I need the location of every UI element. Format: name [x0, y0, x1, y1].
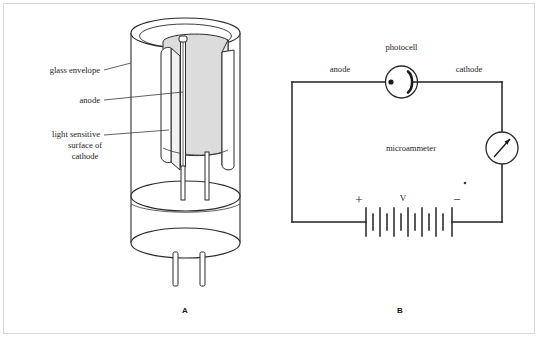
label-cathode-line2: surface of: [68, 140, 102, 150]
anode-rod: [179, 36, 187, 168]
label-battery-negative: −: [453, 192, 460, 207]
label-microammeter: microammeter: [386, 143, 436, 153]
panel-a-phototube: glass envelope anode light sensitive sur…: [50, 18, 240, 315]
panel-b-circuit: photocell anode cathode microammeter: [292, 42, 518, 315]
microammeter-symbol: [486, 132, 518, 164]
photocell-symbol: [386, 66, 418, 98]
label-circuit-cathode: cathode: [456, 64, 483, 74]
label-circuit-anode: anode: [330, 64, 351, 74]
panel-b-letter: B: [397, 306, 403, 315]
page-frame: [4, 4, 535, 334]
label-cathode-line1: light sensitive: [52, 129, 100, 139]
scan-speck: [464, 182, 467, 185]
label-cathode-line3: cathode: [72, 151, 99, 161]
photocell-anode-dot: [388, 79, 393, 84]
label-anode: anode: [79, 95, 100, 105]
cathode-plate: [161, 34, 234, 170]
label-glass-envelope: glass envelope: [50, 65, 101, 75]
label-photocell: photocell: [386, 42, 419, 52]
photocell-figure: glass envelope anode light sensitive sur…: [0, 0, 538, 337]
label-battery-positive: +: [355, 192, 362, 207]
panel-a-letter: A: [182, 306, 188, 315]
label-battery-voltage: V: [400, 193, 407, 203]
battery-symbol: [366, 208, 452, 236]
